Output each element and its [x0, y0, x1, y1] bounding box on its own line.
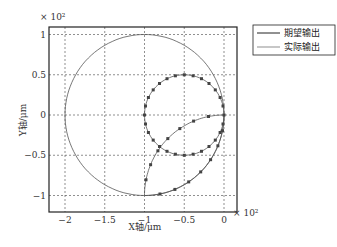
- x-tick-label: −1.5: [94, 215, 116, 225]
- y-axis-label: Y轴/μm: [17, 103, 28, 137]
- y-tick-label: −1: [33, 191, 46, 201]
- y-tick-label: −0.5: [24, 150, 46, 160]
- legend-item-expected: 期望输出: [284, 27, 320, 38]
- plot-frame: [49, 27, 237, 212]
- y-exponent-label: × 10²: [40, 12, 66, 22]
- legend-item-actual: 实际输出: [284, 41, 320, 52]
- trajectory-chart: −2−1.5−1−0.50 10.50−0.5−1 × 10² × 10² X轴…: [0, 0, 337, 247]
- grid-lines: [49, 27, 237, 212]
- y-tick-label: 0.5: [32, 70, 47, 80]
- legend: 期望输出 实际输出: [253, 25, 335, 55]
- x-exponent-label: × 10²: [233, 208, 259, 218]
- x-tick-label: 0: [221, 215, 227, 225]
- x-tick-label: −0.5: [173, 215, 195, 225]
- x-tick-label: −2: [58, 215, 71, 225]
- y-tick-label: 0: [40, 110, 46, 120]
- y-tick-label: 1: [40, 30, 46, 40]
- x-axis-label: X轴/μm: [129, 221, 162, 232]
